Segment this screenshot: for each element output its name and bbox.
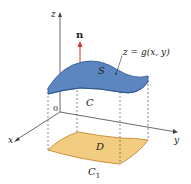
c1-subscript: 1	[96, 172, 100, 180]
z-arrow-icon	[58, 12, 62, 17]
y-axis	[60, 112, 176, 132]
region-d-label: D	[96, 142, 104, 152]
normal-label: n	[76, 30, 83, 40]
surface-equation: z = g(x, y)	[123, 48, 170, 57]
x-axis-label: x	[8, 136, 13, 145]
c1-main: C	[88, 166, 96, 177]
stokes-diagram: z x y 0 n S z = g(x, y) C D C1	[0, 0, 191, 184]
x-axis	[16, 112, 60, 140]
surface-label: S	[98, 66, 105, 76]
boundary-c1-label: C1	[88, 167, 100, 180]
origin-label: 0	[53, 105, 58, 113]
diagram-graphics	[0, 0, 191, 184]
y-arrow-icon	[173, 129, 178, 134]
z-axis-label: z	[51, 10, 56, 19]
y-axis-label: y	[174, 136, 179, 145]
boundary-c-label: C	[86, 98, 94, 108]
normal-arrow-icon	[78, 41, 83, 47]
